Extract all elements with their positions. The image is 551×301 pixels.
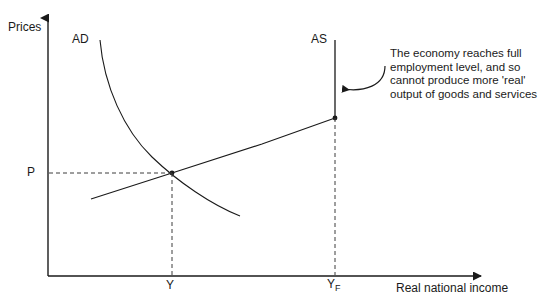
as-curve-sloped bbox=[91, 118, 335, 199]
output-level-label: Y bbox=[166, 278, 174, 292]
ad-curve-label: AD bbox=[72, 32, 89, 46]
full-employment-output-subscript: F bbox=[335, 283, 341, 293]
x-axis-label: Real national income bbox=[396, 281, 508, 295]
diagram-canvas: Prices AD AS P Y YF Real national income… bbox=[0, 0, 551, 301]
full-employment-output-base: Y bbox=[327, 277, 335, 291]
price-level-label: P bbox=[27, 165, 35, 179]
callout-arrow bbox=[343, 66, 385, 90]
y-axis-label: Prices bbox=[8, 20, 41, 34]
as-curve-label: AS bbox=[311, 32, 327, 46]
full-employment-output-label: YF bbox=[327, 277, 341, 293]
full-employment-annotation: The economy reaches full employment leve… bbox=[390, 47, 548, 101]
